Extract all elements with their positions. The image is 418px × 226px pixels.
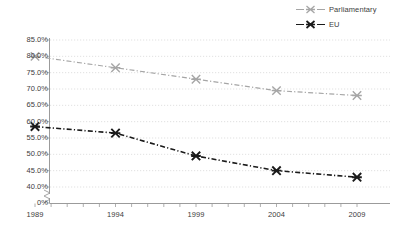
line-chart: Parliamentary EU 85.0%80.0%75 [0, 0, 418, 226]
x-axis-tick-label: 1989 [15, 210, 55, 219]
x-axis-tick-label: 2004 [257, 210, 297, 219]
x-axis-tick-label: 2009 [337, 210, 377, 219]
x-axis-tick-label: 1994 [96, 210, 136, 219]
x-axis-tick-label: 1999 [176, 210, 216, 219]
x-axis-labels: 19891994199920042009 [0, 0, 418, 226]
